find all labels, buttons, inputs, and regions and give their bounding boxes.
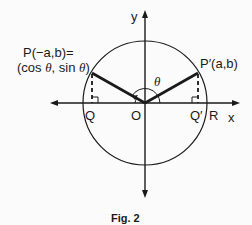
angle-theta-label: θ — [154, 74, 161, 89]
x-axis-left-arrow-icon — [50, 100, 58, 106]
point-R-label: R — [209, 108, 218, 123]
figure-caption: Fig. 2 — [111, 212, 140, 224]
x-axis-label: x — [228, 110, 235, 125]
point-Q-label: Q — [85, 108, 95, 123]
point-P-label: P(−a,b)= — [23, 45, 74, 60]
y-axis-down-arrow-icon — [142, 190, 148, 198]
point-P-prime-label: P′(a,b) — [200, 56, 238, 71]
y-axis-label: y — [131, 9, 138, 24]
point-P-coordinates: (cos θ, sin θ) — [17, 60, 90, 75]
unit-circle-diagram: y x P(−a,b)= (cos θ, sin θ) P′(a,b) θ Q … — [0, 0, 252, 225]
y-axis-up-arrow-icon — [142, 10, 148, 18]
x-axis-right-arrow-icon — [232, 100, 240, 106]
point-O-label: O — [131, 108, 141, 123]
radius-OP-prime — [145, 73, 198, 103]
point-Q-prime-label: Q′ — [190, 108, 203, 123]
